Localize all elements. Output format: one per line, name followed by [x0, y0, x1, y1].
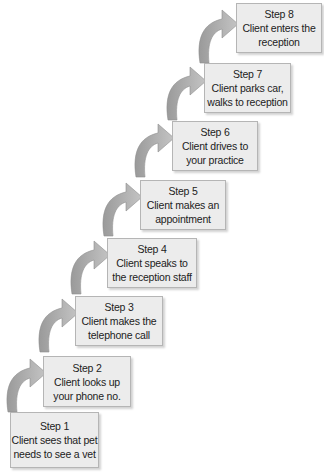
- step-title: Step 2: [72, 361, 101, 375]
- staircase-diagram: Step 1 Client sees that pet needs to see…: [0, 0, 324, 475]
- step-text: your phone no.: [53, 389, 120, 403]
- step-text: appointment: [155, 212, 211, 226]
- step-title: Step 4: [137, 242, 166, 256]
- curved-arrow-icon: [39, 299, 78, 352]
- step-6-box: Step 6 Client drives to your practice: [172, 121, 258, 171]
- curved-arrow-icon: [199, 10, 238, 63]
- step-8-box: Step 8 Client enters the reception: [236, 3, 322, 53]
- step-5-box: Step 5 Client makes an appointment: [140, 180, 226, 230]
- step-text: walks to reception: [207, 95, 287, 109]
- curved-arrow-icon: [71, 241, 110, 294]
- step-text: your practice: [186, 153, 244, 167]
- step-2-box: Step 2 Client looks up your phone no.: [43, 356, 131, 407]
- step-3-box: Step 3 Client makes the telephone call: [75, 296, 163, 346]
- step-1-box: Step 1 Client sees that pet needs to see…: [10, 412, 99, 468]
- step-title: Step 7: [233, 67, 262, 81]
- step-title: Step 3: [104, 300, 133, 314]
- step-text: Client sees that pet: [12, 433, 98, 447]
- step-text: needs to see a vet: [13, 447, 95, 461]
- step-text: telephone call: [88, 328, 150, 342]
- step-title: Step 5: [168, 184, 197, 198]
- step-title: Step 6: [200, 125, 229, 139]
- step-text: Client looks up: [54, 375, 120, 389]
- step-text: reception: [258, 35, 299, 49]
- step-title: Step 1: [40, 419, 69, 433]
- step-7-box: Step 7 Client parks car, walks to recept…: [204, 63, 291, 113]
- step-4-box: Step 4 Client speaks to the reception st…: [107, 238, 197, 288]
- curved-arrow-icon: [7, 359, 46, 412]
- step-text: Client enters the: [242, 21, 315, 35]
- step-text: Client parks car,: [212, 81, 284, 95]
- step-text: Client drives to: [182, 139, 248, 153]
- curved-arrow-icon: [103, 183, 142, 236]
- curved-arrow-icon: [135, 124, 174, 177]
- step-text: Client speaks to: [116, 256, 188, 270]
- step-text: the reception staff: [112, 270, 191, 284]
- step-text: Client makes the: [81, 314, 156, 328]
- step-title: Step 8: [264, 7, 293, 21]
- curved-arrow-icon: [167, 67, 206, 120]
- step-text: Client makes an: [147, 198, 219, 212]
